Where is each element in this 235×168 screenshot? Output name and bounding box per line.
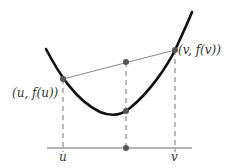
label-axis-v: v	[171, 150, 178, 164]
chord-line	[63, 50, 175, 79]
point-chord-mid	[123, 59, 129, 65]
label-point-u: (u, f(u))	[12, 86, 59, 100]
point-u	[60, 76, 66, 82]
convex-curve	[46, 12, 192, 115]
point-curve-mid	[123, 108, 129, 114]
label-axis-u: u	[59, 150, 67, 164]
point-axis-mid	[123, 145, 129, 151]
convexity-diagram: (u, f(u)) (v, f(v)) u v	[0, 0, 235, 168]
label-point-v: (v, f(v))	[178, 43, 221, 57]
